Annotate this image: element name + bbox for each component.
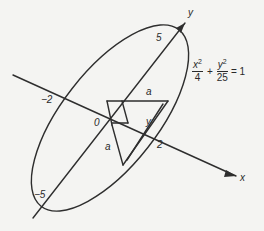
y-axis — [33, 23, 185, 218]
y-exponent: 2 — [223, 58, 227, 65]
tick-y-pos-5: 5 — [156, 33, 162, 43]
tick-x-neg-2: −2 — [41, 95, 52, 105]
ellipse-equation: x2 4 + y2 25 = 1 — [192, 60, 249, 83]
inner-segment-1 — [122, 101, 128, 123]
tick-x-pos-2: 2 — [157, 140, 163, 150]
origin-label: 0 — [94, 118, 100, 128]
x-exponent: 2 — [198, 58, 202, 65]
upper-a-label: a — [146, 87, 152, 97]
x-axis-arrowhead — [224, 170, 236, 177]
x-axis-label: x — [240, 173, 245, 183]
y-denominator: 25 — [217, 72, 228, 83]
plus-sign: + — [207, 66, 213, 77]
tick-y-neg-5: −5 — [34, 190, 45, 200]
fraction-x: x2 4 — [192, 60, 203, 83]
fraction-y: y2 25 — [217, 60, 228, 83]
equals-one: = 1 — [231, 66, 245, 77]
y-axis-label: y — [188, 8, 193, 18]
lower-a-label: a — [105, 142, 111, 152]
y-segment-label: y — [146, 117, 151, 127]
ellipse-diagram: y x 5 −5 2 −2 0 a a y x2 4 + y2 25 = 1 — [0, 0, 264, 231]
x-axis — [13, 75, 236, 176]
x-denominator: 4 — [195, 72, 201, 83]
lower-a-segment — [112, 125, 123, 165]
y-axis-arrowhead — [176, 23, 185, 33]
